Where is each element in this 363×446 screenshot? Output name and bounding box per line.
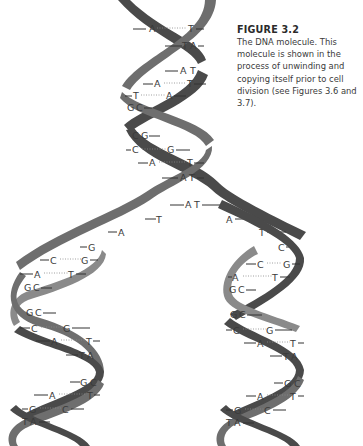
svg-text:T: T [132, 90, 139, 101]
svg-text:A: A [257, 391, 264, 402]
svg-text:G: G [234, 405, 241, 416]
svg-text:T: T [67, 269, 74, 280]
svg-text:C: C [132, 144, 139, 155]
svg-text:C: C [62, 404, 69, 415]
svg-text:G: G [127, 102, 134, 113]
svg-text:A: A [226, 214, 233, 225]
svg-text:T: T [225, 417, 232, 428]
svg-text:G: G [230, 309, 237, 320]
svg-text:A: A [34, 269, 41, 280]
svg-text:C: C [136, 102, 143, 113]
svg-text:G: G [283, 259, 290, 270]
svg-text:G: G [80, 377, 87, 388]
svg-text:A: A [180, 65, 187, 76]
svg-text:G: G [88, 242, 95, 253]
svg-text:A: A [166, 90, 173, 101]
svg-text:T: T [186, 78, 193, 89]
svg-text:T: T [186, 157, 193, 168]
svg-text:A: A [234, 417, 241, 428]
svg-text:A: A [291, 351, 298, 362]
svg-text:A: A [149, 157, 156, 168]
svg-text:A: A [180, 172, 187, 183]
svg-text:C: C [233, 325, 240, 336]
svg-text:A: A [232, 272, 239, 283]
svg-text:G: G [141, 130, 148, 141]
svg-text:T: T [78, 350, 85, 361]
svg-text:C: C [132, 130, 139, 141]
svg-text:C: C [257, 259, 264, 270]
svg-text:C: C [294, 378, 301, 389]
svg-text:C: C [90, 377, 97, 388]
parent-strand-back-3 [126, 128, 306, 240]
svg-text:T: T [271, 272, 278, 283]
svg-text:T: T [189, 65, 196, 76]
svg-text:T: T [289, 391, 296, 402]
svg-text:T: T [155, 214, 162, 225]
figure-description: The DNA molecule. This molecule is shown… [237, 36, 363, 109]
svg-text:A: A [51, 336, 58, 347]
svg-text:A: A [30, 416, 37, 427]
svg-text:T: T [21, 416, 28, 427]
svg-text:C: C [33, 282, 40, 293]
svg-text:A: A [185, 199, 192, 210]
svg-text:T: T [282, 351, 289, 362]
svg-text:T: T [289, 338, 296, 349]
figure-title: FIGURE 3.2 [237, 24, 363, 36]
svg-text:G: G [81, 255, 88, 266]
svg-text:A: A [49, 390, 56, 401]
svg-text:A: A [149, 23, 156, 34]
svg-text:T: T [193, 199, 200, 210]
svg-text:C: C [35, 307, 42, 318]
svg-text:T: T [86, 390, 93, 401]
svg-text:A: A [154, 78, 161, 89]
figure-caption: FIGURE 3.2 The DNA molecule. This molecu… [237, 24, 363, 109]
svg-text:A: A [190, 40, 197, 51]
svg-text:C: C [50, 255, 57, 266]
svg-text:C: C [238, 284, 245, 295]
svg-text:G: G [229, 284, 236, 295]
svg-text:A: A [118, 227, 125, 238]
svg-text:C: C [264, 405, 271, 416]
svg-text:G: G [266, 325, 273, 336]
svg-text:G: G [167, 144, 174, 155]
svg-text:T: T [188, 172, 195, 183]
svg-text:G: G [284, 378, 291, 389]
svg-text:T: T [85, 336, 92, 347]
svg-text:T: T [187, 23, 194, 34]
svg-text:G: G [63, 323, 70, 334]
svg-text:C: C [31, 323, 38, 334]
svg-text:C: C [278, 242, 285, 253]
svg-text:C: C [239, 309, 246, 320]
svg-text:G: G [26, 307, 33, 318]
svg-text:G: G [24, 282, 31, 293]
svg-text:A: A [257, 338, 264, 349]
svg-text:A: A [87, 350, 94, 361]
svg-text:T: T [181, 40, 188, 51]
svg-text:G: G [29, 404, 36, 415]
